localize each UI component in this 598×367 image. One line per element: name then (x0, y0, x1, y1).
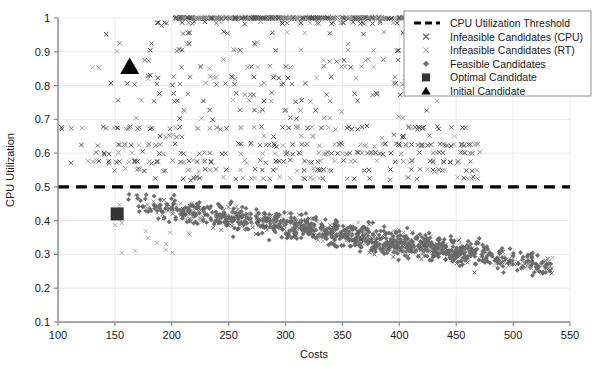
x-axis-title: Costs (300, 348, 329, 360)
legend[interactable]: CPU Utilization ThresholdInfeasible Cand… (404, 11, 591, 97)
x-axis-tick-label: 300 (276, 329, 294, 341)
x-axis-tick-label: 400 (390, 329, 408, 341)
legend-item-label: Initial Candidate (450, 85, 525, 97)
y-axis-tick-label: 0.2 (35, 282, 50, 294)
y-axis-tick-label: 0.6 (35, 147, 50, 159)
legend-square-icon (422, 73, 430, 81)
initial-candidate-marker (120, 57, 139, 73)
scatter-plot: 0.10.20.30.40.50.60.70.80.91100150200250… (0, 0, 598, 367)
y-axis-tick-label: 0.7 (35, 113, 50, 125)
optimal-candidate-marker (111, 207, 124, 220)
x-axis-tick-label: 550 (561, 329, 579, 341)
y-axis-tick-label: 0.1 (35, 316, 50, 328)
y-axis-tick-label: 0.3 (35, 248, 50, 260)
legend-item-label: Feasible Candidates (450, 58, 546, 70)
legend-item-label: CPU Utilization Threshold (450, 17, 570, 29)
x-axis-tick-label: 250 (219, 329, 237, 341)
x-axis-tick-label: 450 (447, 329, 465, 341)
x-axis-tick-label: 350 (333, 329, 351, 341)
legend-item-label: Optimal Candidate (450, 71, 537, 83)
x-axis-tick-label: 150 (106, 329, 124, 341)
y-axis-tick-label: 0.5 (35, 181, 50, 193)
y-axis-tick-label: 0.8 (35, 80, 50, 92)
legend-item-label: Infeasible Candidates (CPU) (450, 31, 583, 43)
y-axis-tick-label: 0.4 (35, 215, 50, 227)
x-axis-tick-label: 500 (504, 329, 522, 341)
legend-item-label: Infeasible Candidates (RT) (450, 44, 575, 56)
x-axis-tick-label: 200 (163, 329, 181, 341)
y-axis-tick-label: 0.9 (35, 46, 50, 58)
y-axis-title: CPU Utilization (4, 133, 16, 207)
x-axis-tick-label: 100 (49, 329, 67, 341)
y-axis-tick-label: 1 (44, 12, 50, 24)
chart-container: 0.10.20.30.40.50.60.70.80.91100150200250… (0, 0, 598, 367)
